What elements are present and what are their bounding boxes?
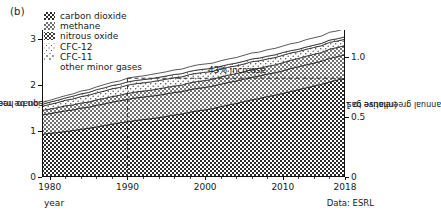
y-tick-right-0.5 [345, 117, 349, 118]
legend-item-methane[interactable]: methane [44, 21, 142, 31]
legend-item-nitrous-oxide[interactable]: nitrous oxide [44, 31, 142, 41]
y-tick-label-right-1: 1.0 [351, 52, 365, 62]
legend-label-other-minor-gases: other minor gases [60, 62, 142, 72]
legend-swatch-cfc-11 [44, 53, 55, 61]
x-tick-minor-1996 [174, 177, 175, 179]
x-tick-minor-2004 [236, 177, 237, 179]
x-tick-minor-2002 [221, 177, 222, 179]
legend-label-methane: methane [60, 21, 100, 31]
x-axis-title: year [44, 198, 64, 208]
x-tick-minor-2008 [267, 177, 268, 179]
x-tick-label-1990: 1990 [116, 182, 139, 192]
legend-swatch-carbon-dioxide [44, 12, 55, 20]
x-tick-label-2018: 2018 [334, 182, 357, 192]
data-credit: Data: ESRL [327, 198, 374, 208]
x-tick-label-2010: 2010 [271, 182, 294, 192]
y-tick-left-1 [38, 131, 42, 132]
y-axis-right-line [344, 30, 345, 177]
x-tick-label-1980: 1980 [38, 182, 61, 192]
y-tick-label-left-0: 0 [30, 172, 36, 182]
y-tick-label-right-0: 0 [351, 172, 357, 182]
x-tick-minor-1984 [81, 177, 82, 179]
y-axis-left-title: contribution to heating imbalance (watts… [4, 30, 30, 177]
x-tick-minor-1982 [65, 177, 66, 179]
x-tick-minor-1992 [143, 177, 144, 179]
legend-item-carbon-dioxide[interactable]: carbon dioxide [44, 11, 142, 21]
y-tick-left-3 [38, 39, 42, 40]
annotation-label: 43% increase [208, 65, 265, 75]
x-tick-label-2000: 2000 [194, 182, 217, 192]
y-tick-right-1 [345, 57, 349, 58]
x-tick-minor-1998 [190, 177, 191, 179]
legend-label-cfc-11: CFC-11 [60, 52, 92, 62]
x-tick-minor-1986 [96, 177, 97, 179]
legend-swatch-other-minor-gases [44, 63, 55, 71]
x-tick-2000 [205, 177, 206, 180]
y-tick-left-0 [38, 177, 42, 178]
x-tick-minor-1994 [159, 177, 160, 179]
x-tick-1980 [50, 177, 51, 180]
y-axis-left-line [42, 30, 43, 177]
legend-label-cfc-12: CFC-12 [60, 42, 92, 52]
x-tick-minor-2006 [252, 177, 253, 179]
x-tick-minor-1988 [112, 177, 113, 179]
y-tick-label-left-1: 1 [30, 126, 36, 136]
x-tick-minor-2012 [298, 177, 299, 179]
legend-swatch-cfc-12 [44, 43, 55, 51]
y-tick-label-left-3: 3 [30, 34, 36, 44]
legend-label-nitrous-oxide: nitrous oxide [60, 31, 118, 41]
legend-swatch-nitrous-oxide [44, 32, 55, 40]
y-tick-label-right-0.5: 0.5 [351, 112, 365, 122]
x-tick-minor-2016 [329, 177, 330, 179]
panel-label: (b) [10, 6, 25, 17]
legend: carbon dioxide methane nitrous oxide CFC… [44, 11, 142, 72]
x-tick-2018 [345, 177, 346, 180]
legend-swatch-methane [44, 22, 55, 30]
x-tick-minor-2014 [314, 177, 315, 179]
legend-item-cfc-12[interactable]: CFC-12 [44, 42, 142, 52]
x-tick-2010 [283, 177, 284, 180]
legend-item-cfc-11[interactable]: CFC-11 [44, 52, 142, 62]
x-tick-1990 [127, 177, 128, 180]
y-tick-label-left-2: 2 [30, 80, 36, 90]
y-tick-left-2 [38, 85, 42, 86]
legend-label-carbon-dioxide: carbon dioxide [60, 11, 126, 21]
x-axis-line [42, 176, 345, 177]
legend-item-other-minor-gases[interactable]: other minor gases [44, 62, 142, 72]
